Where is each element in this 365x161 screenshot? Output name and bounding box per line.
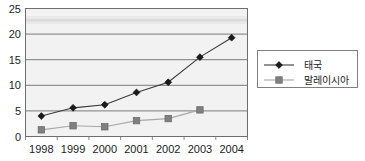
y-axis-tick-label: 20 (9, 28, 21, 40)
x-axis-tick-label: 1999 (61, 143, 85, 155)
x-axis-tick-label: 2003 (188, 143, 212, 155)
y-axis-labels: 0510152025 (9, 3, 21, 143)
y-axis-tick-label: 25 (9, 3, 21, 15)
x-axis-tick-label: 1998 (29, 143, 53, 155)
y-axis-tick-label: 15 (9, 54, 21, 66)
x-axis-labels: 1998199920002001200220032004 (29, 143, 244, 155)
legend-label: 태국 (304, 60, 322, 71)
scan-artifact-line (26, 19, 247, 22)
x-axis-tick-label: 2000 (93, 143, 117, 155)
square-marker (165, 115, 171, 121)
chart-canvas: 0510152025 1998199920002001200220032004 … (0, 0, 365, 161)
legend: 태국말레이시아 (258, 51, 358, 88)
square-marker (38, 127, 44, 133)
x-axis-tick-label: 2001 (124, 143, 148, 155)
square-marker (70, 123, 76, 129)
square-marker (133, 117, 139, 123)
legend-label: 말레이시아 (304, 75, 349, 86)
square-marker (276, 77, 282, 83)
square-marker (102, 124, 108, 130)
y-axis-tick-label: 0 (15, 131, 21, 143)
square-marker (197, 107, 203, 113)
y-axis-tick-label: 10 (9, 79, 21, 91)
y-axis-tick-label: 5 (15, 105, 21, 117)
line-chart: 0510152025 1998199920002001200220032004 … (0, 0, 365, 161)
x-axis-tick-label: 2002 (156, 143, 180, 155)
x-axis-ticks (26, 137, 248, 141)
x-axis-tick-label: 2004 (219, 143, 243, 155)
